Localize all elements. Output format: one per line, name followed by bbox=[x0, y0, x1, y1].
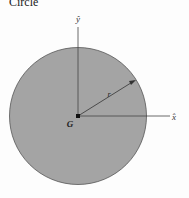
center-label: G bbox=[67, 119, 74, 129]
y-axis-label: ŷ bbox=[75, 14, 80, 24]
circle-diagram: ŷ x̂ G r bbox=[0, 0, 189, 198]
x-axis-label: x̂ bbox=[171, 112, 176, 122]
center-point bbox=[76, 114, 80, 118]
